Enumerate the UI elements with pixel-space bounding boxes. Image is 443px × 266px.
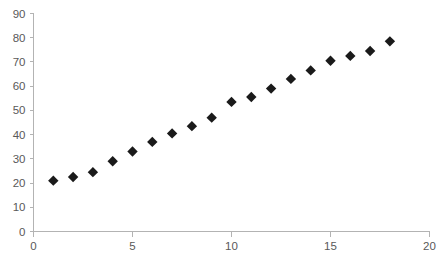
y-tick-label: 10 xyxy=(13,201,26,213)
y-tick-label: 0 xyxy=(19,226,25,238)
x-tick-label: 0 xyxy=(30,240,36,252)
chart-canvas: 0102030405060708090 05101520 xyxy=(0,0,443,266)
y-tick-label: 80 xyxy=(13,32,26,44)
x-tick-label: 5 xyxy=(129,240,135,252)
y-tick-label: 40 xyxy=(13,129,26,141)
y-tick-label: 60 xyxy=(13,80,26,92)
x-tick-label: 10 xyxy=(225,240,238,252)
y-tick-label: 20 xyxy=(13,177,26,189)
x-tick-label: 15 xyxy=(324,240,337,252)
y-tick-label: 90 xyxy=(13,8,26,20)
y-tick-label: 70 xyxy=(13,56,26,68)
x-tick-label: 20 xyxy=(423,240,436,252)
plot-background xyxy=(0,0,443,266)
y-tick-label: 30 xyxy=(13,153,26,165)
scatter-chart: 0102030405060708090 05101520 xyxy=(0,0,443,266)
y-tick-label: 50 xyxy=(13,104,26,116)
